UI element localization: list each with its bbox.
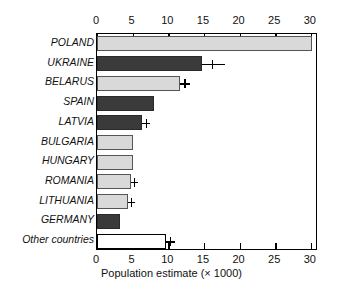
error-bar-cap-lithuania: [131, 198, 132, 207]
error-bar-cap-other-countries: [170, 237, 171, 246]
xtick-bottom-5: [275, 243, 276, 249]
bar-spain: [97, 96, 154, 111]
category-label-lithuania: LITHUANIA: [0, 194, 94, 206]
error-bar-cap-belarus: [184, 79, 185, 88]
bar-poland: [97, 36, 312, 51]
bar-latvia: [97, 115, 142, 130]
bar-belarus: [97, 76, 180, 91]
x-axis-title: Population estimate (× 1000): [0, 267, 343, 279]
category-label-bulgaria: BULGARIA: [0, 135, 94, 147]
category-label-other-countries: Other countries: [0, 233, 94, 245]
error-bar-line-ukraine: [202, 64, 226, 65]
xtick-label-bottom-2: 10: [154, 253, 180, 265]
xtick-label-bottom-0: 0: [83, 253, 109, 265]
bar-germany: [97, 214, 120, 229]
bar-hungary: [97, 155, 133, 170]
error-bar-cap-latvia: [146, 119, 147, 128]
xtick-label-bottom-1: 5: [119, 253, 145, 265]
category-label-ukraine: UKRAINE: [0, 56, 94, 68]
xtick-bottom-3: [204, 243, 205, 249]
error-bar-cap-romania: [134, 178, 135, 187]
xtick-label-top-4: 20: [226, 14, 252, 26]
category-label-romania: ROMANIA: [0, 174, 94, 186]
category-label-latvia: LATVIA: [0, 115, 94, 127]
xtick-bottom-4: [240, 243, 241, 249]
xtick-label-top-1: 5: [119, 14, 145, 26]
bar-chart-figure: 0 5 10 15 20 25 30 0 5 10 15 20 25 30 PO…: [0, 0, 343, 286]
xtick-label-top-6: 30: [297, 14, 323, 26]
plot-area: [96, 33, 317, 250]
xtick-label-top-0: 0: [83, 14, 109, 26]
bar-lithuania: [97, 194, 128, 209]
category-label-germany: GERMANY: [0, 213, 94, 225]
category-label-spain: SPAIN: [0, 95, 94, 107]
category-label-poland: POLAND: [0, 36, 94, 48]
xtick-label-top-5: 25: [261, 14, 287, 26]
xtick-label-bottom-5: 25: [261, 253, 287, 265]
category-label-hungary: HUNGARY: [0, 154, 94, 166]
bar-bulgaria: [97, 135, 133, 150]
xtick-label-bottom-4: 20: [226, 253, 252, 265]
xtick-label-bottom-6: 30: [297, 253, 323, 265]
category-label-belarus: BELARUS: [0, 75, 94, 87]
xtick-label-top-2: 10: [154, 14, 180, 26]
bar-romania: [97, 174, 131, 189]
bar-other-countries: [97, 234, 166, 249]
xtick-bottom-6: [311, 243, 312, 249]
xtick-label-top-3: 15: [190, 14, 216, 26]
error-bar-cap-ukraine: [212, 60, 213, 69]
xtick-label-bottom-3: 15: [190, 253, 216, 265]
bar-ukraine: [97, 56, 202, 71]
